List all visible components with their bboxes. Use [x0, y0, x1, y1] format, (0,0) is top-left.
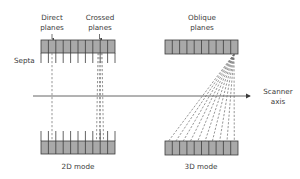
2d-top-detector — [41, 40, 115, 53]
direct-planes-label-1: Direct — [41, 13, 63, 22]
3d-bottom-detector — [165, 141, 238, 155]
3d-mode-label: 3D mode — [185, 162, 218, 171]
crossed-planes-label-1: Crossed — [86, 13, 115, 22]
2d-mode-label: 2D mode — [62, 162, 95, 171]
pet-acquisition-diagram: Direct planes Crossed planes Oblique pla… — [0, 0, 300, 179]
scanner-axis-label-1: Scanner — [263, 87, 292, 96]
2d-bottom-septa — [41, 131, 115, 141]
oblique-planes-label-1: Oblique — [188, 13, 216, 22]
2d-bottom-detector — [41, 141, 115, 154]
oblique-planes-label-2: planes — [190, 23, 214, 32]
2d-lines-of-response — [52, 53, 104, 141]
crossed-planes-label-2: planes — [88, 23, 112, 32]
3d-top-detector — [165, 40, 238, 54]
septa-label: Septa — [14, 56, 35, 65]
scanner-axis-label-2: axis — [271, 97, 286, 106]
3d-oblique-fan — [169, 54, 235, 141]
direct-planes-label-2: planes — [40, 23, 64, 32]
